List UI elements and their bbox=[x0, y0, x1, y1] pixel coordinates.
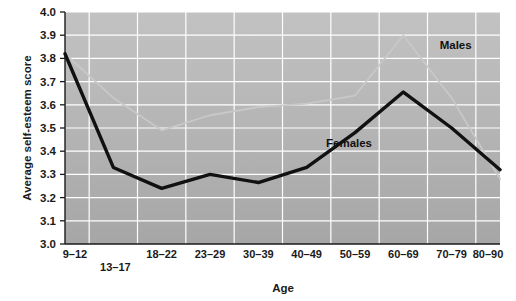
y-tick-label: 4.0 bbox=[40, 6, 56, 18]
x-tick-label: 60–69 bbox=[388, 248, 419, 260]
series-label-males: Males bbox=[440, 39, 472, 51]
x-tick-label: 30–39 bbox=[243, 248, 274, 260]
y-tick-label: 3.8 bbox=[40, 52, 57, 64]
x-tick-label: 9–12 bbox=[63, 248, 87, 260]
x-axis-title: Age bbox=[272, 282, 294, 294]
x-tick-label: 18–22 bbox=[146, 248, 177, 260]
x-tick-label: 80–90 bbox=[473, 248, 504, 260]
x-tick-label: 13–17 bbox=[100, 261, 131, 273]
y-tick-label: 3.9 bbox=[40, 29, 56, 41]
x-tick-label: 40–49 bbox=[291, 248, 322, 260]
x-tick-label: 23–29 bbox=[195, 248, 226, 260]
y-axis-title: Average self-esteem score bbox=[21, 55, 33, 200]
y-tick-label: 3.4 bbox=[40, 145, 57, 157]
chart-svg: 3.03.13.23.33.43.53.63.73.83.94.0 9–1213… bbox=[0, 0, 516, 301]
y-tick-label: 3.5 bbox=[40, 122, 57, 134]
series-label-females: Females bbox=[326, 137, 372, 149]
x-tick-label: 70–79 bbox=[436, 248, 467, 260]
y-tick-label: 3.0 bbox=[40, 238, 56, 250]
x-tick-label: 50–59 bbox=[340, 248, 371, 260]
y-tick-label: 3.3 bbox=[40, 168, 56, 180]
y-tick-label: 3.2 bbox=[40, 192, 56, 204]
self-esteem-line-chart: 3.03.13.23.33.43.53.63.73.83.94.0 9–1213… bbox=[0, 0, 516, 301]
y-tick-label: 3.7 bbox=[40, 76, 56, 88]
y-tick-label: 3.6 bbox=[40, 99, 56, 111]
y-tick-label: 3.1 bbox=[40, 215, 57, 227]
